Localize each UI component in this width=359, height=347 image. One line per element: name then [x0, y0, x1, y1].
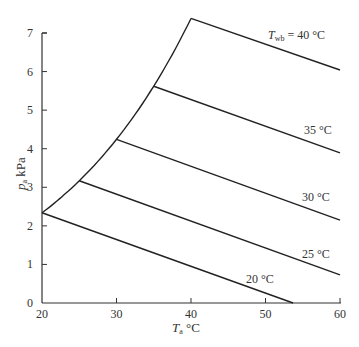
x-tick-label: 60: [334, 307, 346, 321]
y-tick-label: 1: [27, 257, 33, 271]
x-tick-label: 30: [111, 307, 123, 321]
label-25: 25 °C: [302, 247, 330, 261]
label-30: 30 °C: [302, 190, 330, 204]
x-tick-label: 50: [260, 307, 272, 321]
x-tick-label: 40: [185, 307, 197, 321]
y-axis-label: pa kPa: [13, 157, 29, 191]
label-35: 35 °C: [304, 123, 332, 137]
y-ticks: 01234567: [27, 26, 47, 310]
y-tick-label: 0: [27, 296, 33, 310]
axes: [42, 33, 341, 303]
x-ticks: 2030405060: [36, 298, 346, 321]
wet-bulb-line: [79, 181, 340, 275]
psychrometric-chart: 01234567 2030405060 Twb = 40 °C 35 °C 30…: [0, 0, 359, 347]
y-tick-label: 2: [27, 219, 33, 233]
y-tick-label: 4: [27, 142, 33, 156]
y-tick-label: 6: [27, 65, 33, 79]
wet-bulb-line: [154, 86, 340, 153]
y-tick-label: 5: [27, 103, 33, 117]
label-twb-40: Twb = 40 °C: [268, 28, 325, 43]
wet-bulb-lines: [42, 18, 340, 303]
y-tick-label: 7: [27, 26, 33, 40]
wet-bulb-line: [42, 213, 293, 303]
x-axis-label: Ta °C: [172, 320, 200, 336]
x-tick-label: 20: [36, 307, 48, 321]
label-20: 20 °C: [246, 272, 274, 286]
saturation-curve: [42, 19, 191, 213]
wet-bulb-line: [117, 139, 341, 220]
wet-bulb-line: [191, 18, 340, 70]
